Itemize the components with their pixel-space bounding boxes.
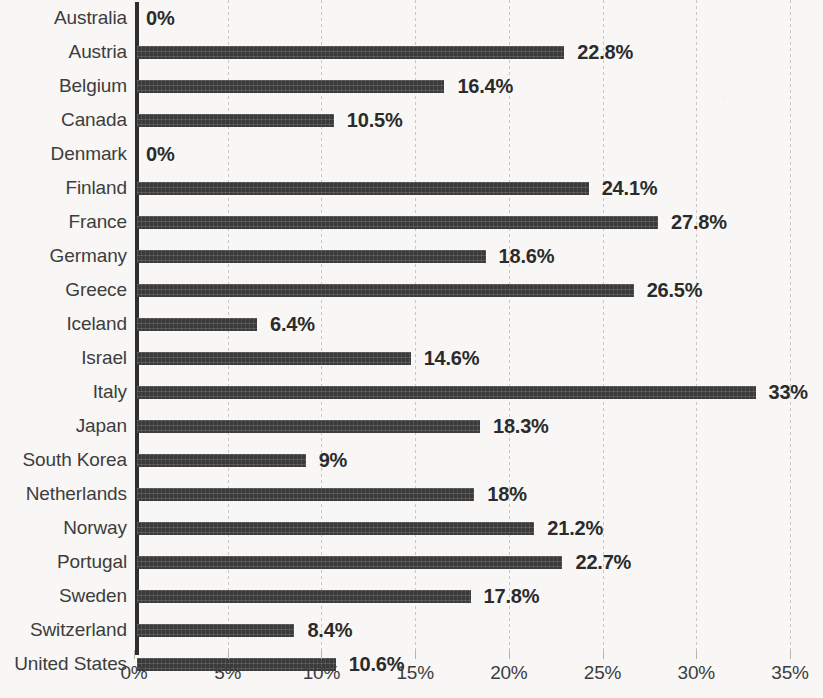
chart-page: Australia0%Austria22.8%Belgium16.4%Canad…	[0, 0, 823, 698]
bar-row: Netherlands18%	[0, 477, 823, 511]
category-label-denmark: Denmark	[0, 137, 127, 171]
value-label-south-korea: 9%	[319, 443, 348, 477]
value-label-belgium: 16.4%	[457, 69, 513, 103]
bar-row: Canada10.5%	[0, 103, 823, 137]
x-tick-mark	[696, 650, 697, 659]
x-axis-tick-label: 5%	[214, 662, 241, 684]
bar-row: Japan18.3%	[0, 409, 823, 443]
category-label-sweden: Sweden	[0, 579, 127, 613]
value-label-greece: 26.5%	[647, 273, 703, 307]
value-label-sweden: 17.8%	[484, 579, 540, 613]
bar-row: France27.8%	[0, 205, 823, 239]
bar-south-korea[interactable]	[137, 454, 306, 467]
bar-netherlands[interactable]	[137, 488, 474, 501]
x-axis-tick-label: 15%	[396, 662, 433, 684]
category-label-norway: Norway	[0, 511, 127, 545]
bar-row: South Korea9%	[0, 443, 823, 477]
bar-chart: Australia0%Austria22.8%Belgium16.4%Canad…	[0, 0, 823, 698]
category-label-israel: Israel	[0, 341, 127, 375]
category-label-switzerland: Switzerland	[0, 613, 127, 647]
category-label-netherlands: Netherlands	[0, 477, 127, 511]
value-label-france: 27.8%	[671, 205, 727, 239]
x-axis-tick-label: 25%	[584, 662, 621, 684]
x-tick-mark	[509, 650, 510, 659]
bar-iceland[interactable]	[137, 318, 257, 331]
bar-italy[interactable]	[137, 386, 756, 399]
x-tick-mark	[228, 650, 229, 659]
x-tick-mark	[603, 650, 604, 659]
bar-israel[interactable]	[137, 352, 411, 365]
category-label-finland: Finland	[0, 171, 127, 205]
value-label-norway: 21.2%	[547, 511, 603, 545]
bar-row: Denmark0%	[0, 137, 823, 171]
bar-row: Switzerland8.4%	[0, 613, 823, 647]
bar-switzerland[interactable]	[137, 624, 294, 637]
x-tick-mark	[134, 650, 135, 659]
bar-canada[interactable]	[137, 114, 334, 127]
bar-japan[interactable]	[137, 420, 480, 433]
bar-germany[interactable]	[137, 250, 486, 263]
bar-row: Sweden17.8%	[0, 579, 823, 613]
category-label-japan: Japan	[0, 409, 127, 443]
value-label-germany: 18.6%	[499, 239, 555, 273]
category-label-australia: Australia	[0, 1, 127, 35]
bar-finland[interactable]	[137, 182, 589, 195]
value-label-israel: 14.6%	[424, 341, 480, 375]
bar-row: Portugal22.7%	[0, 545, 823, 579]
category-label-portugal: Portugal	[0, 545, 127, 579]
category-label-belgium: Belgium	[0, 69, 127, 103]
x-tick-mark	[415, 650, 416, 659]
bar-austria[interactable]	[137, 46, 564, 59]
x-axis-tick-label: 30%	[678, 662, 715, 684]
bar-france[interactable]	[137, 216, 658, 229]
category-label-south-korea: South Korea	[0, 443, 127, 477]
category-label-germany: Germany	[0, 239, 127, 273]
value-label-finland: 24.1%	[602, 171, 658, 205]
value-label-japan: 18.3%	[493, 409, 549, 443]
bar-portugal[interactable]	[137, 556, 562, 569]
x-axis-tick-label: 35%	[771, 662, 808, 684]
x-axis-tick-label: 10%	[303, 662, 340, 684]
category-label-italy: Italy	[0, 375, 127, 409]
bar-row: Austria22.8%	[0, 35, 823, 69]
bar-row: Finland24.1%	[0, 171, 823, 205]
value-label-italy: 33%	[769, 375, 808, 409]
category-label-austria: Austria	[0, 35, 127, 69]
bar-sweden[interactable]	[137, 590, 471, 603]
x-axis-tick-label: 0%	[120, 662, 147, 684]
bar-row: Germany18.6%	[0, 239, 823, 273]
bar-row: Iceland6.4%	[0, 307, 823, 341]
bar-row: Israel14.6%	[0, 341, 823, 375]
bar-norway[interactable]	[137, 522, 534, 535]
bar-greece[interactable]	[137, 284, 634, 297]
bar-row: Greece26.5%	[0, 273, 823, 307]
value-label-netherlands: 18%	[487, 477, 526, 511]
category-label-canada: Canada	[0, 103, 127, 137]
category-label-france: France	[0, 205, 127, 239]
value-label-denmark: 0%	[146, 137, 175, 171]
bar-row: Norway21.2%	[0, 511, 823, 545]
x-axis-tick-label: 20%	[490, 662, 527, 684]
category-label-iceland: Iceland	[0, 307, 127, 341]
value-label-switzerland: 8.4%	[307, 613, 352, 647]
value-label-austria: 22.8%	[577, 35, 633, 69]
bar-row: Italy33%	[0, 375, 823, 409]
x-tick-mark	[321, 650, 322, 659]
value-label-portugal: 22.7%	[575, 545, 631, 579]
bar-row: Belgium16.4%	[0, 69, 823, 103]
value-label-canada: 10.5%	[347, 103, 403, 137]
value-label-iceland: 6.4%	[270, 307, 315, 341]
category-label-united-states: United States	[0, 647, 127, 681]
value-label-australia: 0%	[146, 1, 175, 35]
bar-row: Australia0%	[0, 1, 823, 35]
bar-belgium[interactable]	[137, 80, 444, 93]
category-label-greece: Greece	[0, 273, 127, 307]
x-tick-mark	[790, 650, 791, 659]
